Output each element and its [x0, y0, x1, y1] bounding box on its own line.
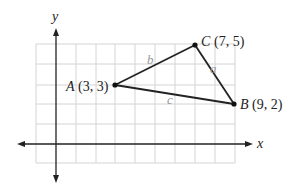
svg-text:B: B — [240, 97, 249, 112]
svg-text:(9, 2): (9, 2) — [252, 97, 283, 113]
point-label-a: A (3, 3) — [65, 79, 109, 95]
point-b-dot — [231, 101, 236, 106]
side-label-b: b — [147, 52, 154, 67]
point-a-dot — [112, 82, 117, 87]
point-label-b: B (9, 2) — [240, 97, 283, 113]
x-axis-label: x — [256, 136, 264, 151]
svg-text:(3, 3): (3, 3) — [78, 79, 109, 95]
y-axis — [53, 28, 59, 183]
x-axis-right-arrow-icon — [245, 141, 253, 147]
svg-text:A: A — [65, 79, 75, 94]
y-axis-down-arrow-icon — [53, 175, 59, 183]
y-axis-label: y — [50, 9, 59, 24]
x-axis-left-arrow-icon — [17, 141, 25, 147]
coordinate-diagram: x y b a c A (3, 3) C (7, 5) B (9, 2) — [0, 0, 297, 191]
side-label-a: a — [210, 61, 217, 76]
point-c-dot — [192, 42, 197, 47]
point-label-c: C (7, 5) — [201, 34, 245, 50]
svg-text:(7, 5): (7, 5) — [214, 34, 245, 50]
side-label-c: c — [167, 92, 173, 107]
y-axis-up-arrow-icon — [53, 28, 59, 36]
svg-text:C: C — [201, 34, 211, 49]
